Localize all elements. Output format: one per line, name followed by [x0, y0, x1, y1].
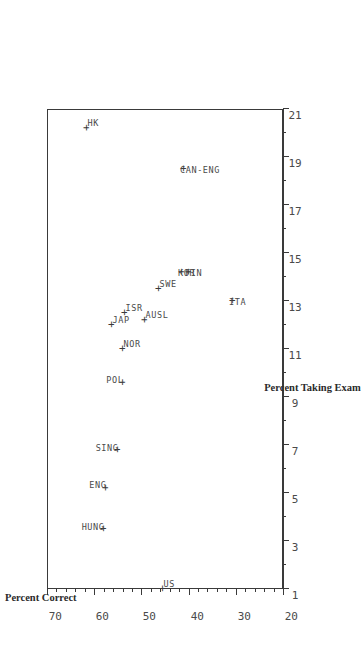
y-tick [104, 589, 105, 592]
x-tick [283, 396, 289, 397]
data-point-label: SING [95, 443, 118, 452]
x-tick-label: 17 [288, 205, 301, 218]
x-tick-label: 3 [292, 541, 299, 554]
x-tick [283, 228, 286, 229]
x-tick [283, 372, 286, 373]
data-point-label: NOR [123, 340, 140, 349]
x-tick [283, 492, 289, 493]
y-tick [151, 589, 152, 592]
x-tick-label: 7 [292, 445, 299, 458]
x-tick-label: 11 [288, 349, 301, 362]
y-tick [198, 589, 199, 592]
x-tick-label: 19 [288, 157, 301, 170]
y-tick-label: 50 [126, 610, 156, 623]
y-tick [113, 589, 114, 592]
y-tick [226, 589, 227, 592]
data-point-label: AUSL [145, 311, 168, 320]
y-tick [170, 589, 171, 592]
x-tick [283, 276, 286, 277]
x-tick-label: 13 [288, 301, 301, 314]
data-point-label: HK [88, 119, 99, 128]
x-tick-label: 1 [292, 589, 299, 602]
y-tick [255, 589, 256, 592]
scatter-chart: 13579111315171921 203040506070 +HUNG+ENG… [25, 27, 325, 627]
y-tick-label: 30 [221, 610, 251, 623]
y-tick [236, 589, 237, 595]
x-tick-label: 21 [288, 109, 301, 122]
y-tick [132, 589, 133, 592]
data-point-label: POL [106, 376, 123, 385]
y-tick-label: 70 [32, 610, 62, 623]
y-tick [245, 589, 246, 592]
x-tick [283, 444, 289, 445]
y-tick [264, 589, 265, 592]
data-point-label: ISR [125, 304, 142, 313]
y-tick [94, 589, 95, 595]
data-point-label: ENG [89, 482, 106, 491]
data-point-label: US [163, 580, 174, 589]
y-tick-label: 40 [174, 610, 204, 623]
y-tick [179, 589, 180, 592]
x-tick-label: 9 [292, 397, 299, 410]
x-tick [283, 324, 286, 325]
y-axis-title: Percent Correct [5, 592, 77, 603]
x-tick [283, 516, 286, 517]
y-tick [274, 589, 275, 592]
x-tick-label: 5 [292, 493, 299, 506]
y-tick [141, 589, 142, 595]
x-tick [283, 180, 286, 181]
x-tick [283, 468, 286, 469]
data-points-layer: +HUNG+ENG+SING+POL+NOR+JAP+ISR+AUSL+SWE+… [47, 109, 283, 589]
data-point-label: HUNG [81, 523, 104, 532]
x-tick [283, 564, 286, 565]
x-axis-title: Percent Taking Exam [264, 382, 361, 393]
x-tick-label: 15 [288, 253, 301, 266]
y-tick-label: 20 [268, 610, 298, 623]
x-tick [283, 540, 289, 541]
data-point-label: SWE [160, 280, 177, 289]
y-tick [207, 589, 208, 592]
y-tick [217, 589, 218, 592]
y-tick [85, 589, 86, 592]
y-tick [189, 589, 190, 595]
x-tick [283, 420, 286, 421]
y-tick [123, 589, 124, 592]
x-tick [283, 132, 286, 133]
y-tick-label: 60 [79, 610, 109, 623]
y-tick [283, 589, 284, 595]
